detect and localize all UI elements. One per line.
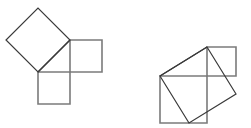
right-figure-square-on-hypotenuse	[160, 47, 236, 123]
right-figure-square-on-vertical-leg	[207, 47, 236, 76]
hypotenuse-lines	[38, 40, 207, 76]
left-figure-square-on-vertical-leg	[70, 40, 102, 72]
pythagorean-diagram-canvas	[0, 0, 251, 128]
left-figure-hypotenuse	[38, 40, 70, 72]
left-figure-square-on-hypotenuse	[6, 8, 70, 72]
right-figure-hypotenuse	[160, 47, 207, 76]
left-figure-square-on-horizontal-leg	[38, 72, 70, 104]
pythagorean-figure-right	[160, 47, 236, 123]
